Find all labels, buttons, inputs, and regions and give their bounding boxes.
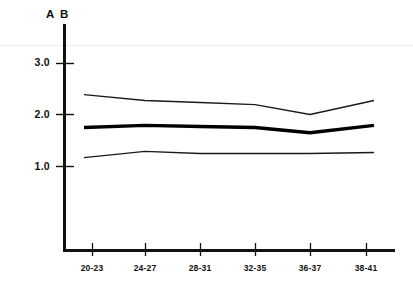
series-line-upper: [84, 95, 374, 115]
plot-canvas: [0, 0, 413, 289]
chart-figure: A B 3.0 2.0 1.0 20-23 24-27 28-31 32-35 …: [0, 0, 413, 289]
series-line-lower: [84, 151, 374, 157]
series-line-mean: [84, 125, 374, 132]
